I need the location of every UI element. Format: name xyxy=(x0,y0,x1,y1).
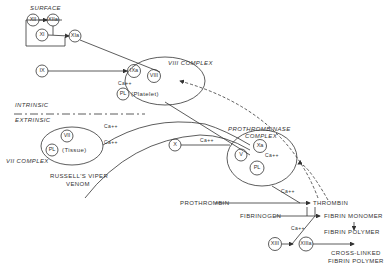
ca-label: Ca++ xyxy=(104,124,118,129)
platelet-label: (Platelet) xyxy=(131,91,159,97)
venom-label: VENOM xyxy=(66,181,90,187)
factor-x: X xyxy=(169,142,181,148)
ca-label: Ca++ xyxy=(265,153,279,158)
prothrombin-label: PROTHROMBIN xyxy=(180,200,229,206)
extrinsic-label: EXTRINSIC xyxy=(15,117,51,123)
intrinsic-label: INTRINSIC xyxy=(15,102,49,108)
viii-complex-label: VIII COMPLEX xyxy=(168,60,213,66)
prothrombinase-complex-label: COMPLEX xyxy=(245,133,277,139)
factor-xiii: XIII xyxy=(269,241,281,247)
coagulation-cascade-diagram xyxy=(0,0,389,268)
fibrin-monomer-label-b: MONOMER xyxy=(348,213,383,219)
fibrinogen-label: FIBRINOGEN xyxy=(240,213,281,219)
factor-xiiia: XIIIa xyxy=(298,241,314,247)
tissue-label: (Tissue) xyxy=(62,147,87,153)
ca-label: Ca++ xyxy=(281,189,295,194)
ca-label: Ca++ xyxy=(118,81,132,86)
prothrombinase-label: PROTHROMBINASE xyxy=(228,126,291,132)
factor-xii: XII xyxy=(27,17,39,23)
factor-pl-prothrombinase: PL xyxy=(251,165,263,171)
thrombin-label: THROMBIN xyxy=(313,200,348,206)
crosslinked-label: CROSS-LINKED xyxy=(331,250,381,256)
factor-ixa: IXa xyxy=(128,68,140,74)
crosslinked-fibrin-polymer-label: FIBRIN POLYMER xyxy=(328,258,384,264)
factor-xiia: XIIa xyxy=(47,17,59,23)
factor-pl-tissue: PL xyxy=(46,147,58,153)
factor-pl: PL xyxy=(117,91,129,97)
ca-label: Ca++ xyxy=(200,138,214,143)
factor-ix: IX xyxy=(36,68,48,74)
ca-label: Ca++ xyxy=(104,140,118,145)
vii-complex-label: VII COMPLEX xyxy=(6,158,49,164)
russells-viper-label: RUSSELL'S VIPER xyxy=(50,173,108,179)
factor-viii: VIII xyxy=(148,73,160,79)
ca-label: Ca++ xyxy=(291,226,305,231)
surface-label: SURFACE xyxy=(30,5,61,11)
fibrin-polymer-label-a: FIBRIN xyxy=(324,229,346,235)
factor-vii: VII xyxy=(61,133,73,139)
factor-xia: XIa xyxy=(69,33,81,39)
factor-xa: Xa xyxy=(254,143,266,149)
factor-xi: XI xyxy=(36,32,48,38)
fibrin-polymer-label-b: POLYMER xyxy=(348,229,380,235)
factor-v: V xyxy=(235,152,247,158)
fibrin-monomer-label-a: FIBRIN xyxy=(324,213,346,219)
